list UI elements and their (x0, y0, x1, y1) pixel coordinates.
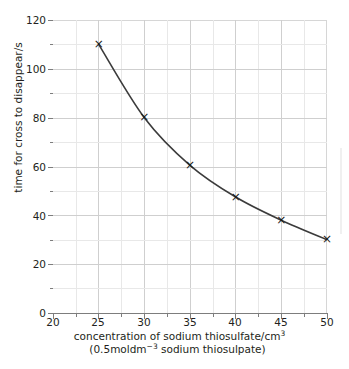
chart-figure: time for cross to disappear/s 120 100 80… (0, 0, 349, 369)
x-axis-line (53, 313, 328, 314)
y-tick-label-120: 120 (24, 15, 46, 26)
x-tick-label-30: 30 (129, 317, 159, 328)
y-tick-label-80: 80 (24, 113, 46, 124)
x-tick-label-25: 25 (83, 317, 113, 328)
x-tick-minor-47.5 (304, 314, 305, 317)
page-edge-artifact (340, 148, 342, 234)
x-tick-label-35: 35 (175, 317, 205, 328)
x-axis-title-line1: concentration of sodium thiosulfate/cm3 (0, 330, 349, 343)
y-tick-label-100: 100 (24, 64, 46, 75)
x-tick-label-45: 45 (266, 317, 296, 328)
data-curve (53, 20, 327, 313)
x-tick-minor-37.5 (213, 314, 214, 317)
x-tick-minor-42.5 (258, 314, 259, 317)
x-tick-label-20: 20 (38, 317, 68, 328)
x-tick-label-40: 40 (220, 317, 250, 328)
y-axis-title: time for cross to disappear/s (13, 18, 24, 218)
x-axis-title-line2: (0.5moldm−3 sodium thiosulpate) (0, 343, 349, 356)
x-tick-minor-32.5 (167, 314, 168, 317)
x-tick-label-50: 50 (312, 317, 342, 328)
y-tick-label-40: 40 (24, 211, 46, 222)
x-tick-minor-22.5 (76, 314, 77, 317)
y-tick-label-20: 20 (24, 259, 46, 270)
x-tick-minor-27.5 (121, 314, 122, 317)
y-tick-label-60: 60 (24, 162, 46, 173)
x-axis-title: concentration of sodium thiosulfate/cm3 … (0, 330, 349, 355)
plot-area: ×××××× (53, 20, 327, 313)
